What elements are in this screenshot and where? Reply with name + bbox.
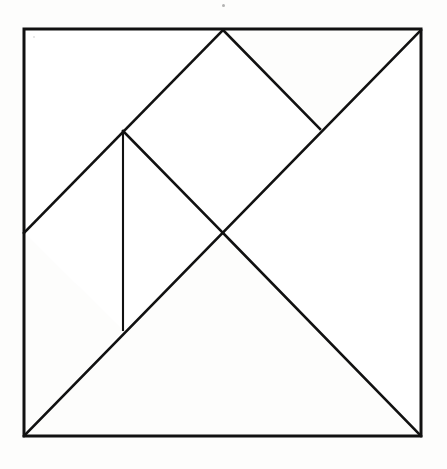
tangram-figure xyxy=(0,0,447,469)
scan-speck-top-icon xyxy=(222,4,225,7)
diagram-canvas xyxy=(0,0,447,469)
scan-speck-inner-icon xyxy=(33,36,35,38)
